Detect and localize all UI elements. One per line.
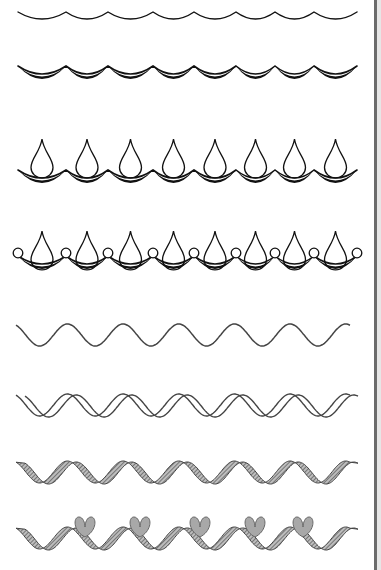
row-ribbon-hearts — [16, 517, 358, 550]
row-double-wave — [16, 394, 358, 417]
row-scallop-drops-circles — [13, 231, 362, 270]
row-ribbon-wave — [16, 461, 358, 484]
row-double-scallop — [18, 66, 357, 79]
row-single-scallop — [18, 12, 357, 19]
row-single-wave — [16, 324, 350, 346]
row-scallop-drops — [18, 139, 357, 183]
border-patterns-illustration — [0, 0, 381, 570]
